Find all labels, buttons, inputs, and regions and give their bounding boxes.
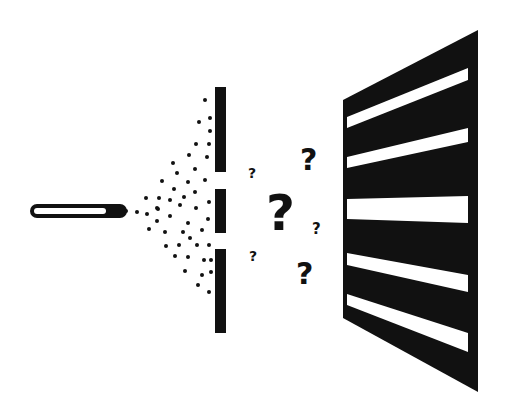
particle-dot [194, 142, 198, 146]
particle-dot [193, 190, 197, 194]
particle-emitter [30, 204, 127, 218]
particle-dot [186, 255, 190, 259]
question-mark: ? [248, 165, 256, 181]
particle-dot [207, 243, 211, 247]
particle-dot [202, 258, 206, 262]
particle-dot [177, 243, 181, 247]
question-mark: ? [300, 142, 317, 177]
particle-dot [207, 200, 211, 204]
particle-dot [203, 178, 207, 182]
particle-dot [171, 161, 175, 165]
particle-dot [196, 283, 200, 287]
particle-dot [195, 243, 199, 247]
interference-band-central [347, 196, 468, 223]
particle-dot [168, 198, 172, 202]
particle-dot [207, 290, 211, 294]
particle-dot [200, 273, 204, 277]
particle-dot [172, 187, 176, 191]
particle-dot [175, 171, 179, 175]
particle-dot [164, 244, 168, 248]
particle-spray [124, 98, 213, 294]
particle-dot [135, 210, 139, 214]
particle-dot [188, 236, 192, 240]
particle-dot [157, 196, 161, 200]
particle-dot [200, 228, 204, 232]
particle-dot [193, 167, 197, 171]
particle-dot [207, 142, 211, 146]
question-marks: ? ? ? ? ? ? [248, 142, 321, 291]
particle-dot [203, 98, 207, 102]
particle-dot [182, 195, 186, 199]
particle-dot [208, 129, 212, 133]
particle-dot [168, 214, 172, 218]
barrier-middle-segment [215, 189, 226, 233]
particle-dot [187, 153, 191, 157]
particle-dot [194, 206, 198, 210]
particle-dot [205, 155, 209, 159]
question-mark-large: ? [266, 184, 295, 242]
emitter-window [34, 208, 106, 214]
detection-screen [343, 30, 478, 392]
slit-barrier [215, 87, 226, 333]
particle-dot [145, 212, 149, 216]
particle-dot [208, 116, 212, 120]
particle-dot [160, 179, 164, 183]
particle-dot [178, 203, 182, 207]
particle-dot [155, 219, 159, 223]
question-mark: ? [249, 248, 257, 264]
particle-dot [124, 209, 128, 213]
particle-dot [197, 120, 201, 124]
particle-dot [183, 269, 187, 273]
particle-dot [156, 207, 160, 211]
particle-dot [186, 221, 190, 225]
particle-dot [209, 258, 213, 262]
barrier-top-segment [215, 87, 226, 172]
particle-dot [147, 227, 151, 231]
particle-dot [163, 230, 167, 234]
barrier-bottom-segment [215, 249, 226, 333]
question-mark: ? [296, 256, 313, 291]
particle-dot [173, 254, 177, 258]
particle-dot [209, 270, 213, 274]
particle-dot [144, 196, 148, 200]
particle-dot [181, 230, 185, 234]
double-slit-diagram: ? ? ? ? ? ? [0, 0, 505, 410]
question-mark: ? [312, 220, 321, 238]
particle-dot [186, 180, 190, 184]
particle-dot [206, 217, 210, 221]
